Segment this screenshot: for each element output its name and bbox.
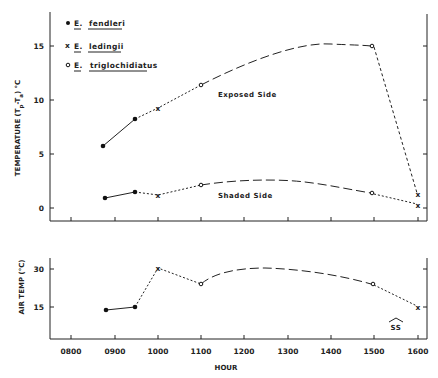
marker-triglochidiatus <box>199 83 203 87</box>
top-y-ticks-left <box>50 46 54 208</box>
legend-item-fendleri: E. fendleri <box>66 19 125 29</box>
bottom-y-ticks <box>50 269 427 307</box>
legend-genus: E. <box>74 42 83 51</box>
top-ytick-5: 5 <box>39 150 44 159</box>
xtick-1200: 1200 <box>234 347 255 356</box>
marker-triglochidiatus <box>370 191 374 195</box>
top-ytick-0: 0 <box>39 204 44 213</box>
xtick-1000: 1000 <box>148 347 169 356</box>
top-y-ticks-right <box>423 46 427 208</box>
top-ytick-15: 15 <box>34 42 44 51</box>
top-y-axis-title: TEMPERATURE (Tp-Ta) °C <box>14 80 25 176</box>
x-marker-icon: x <box>65 41 70 50</box>
marker-fendleri <box>101 144 106 149</box>
top-x-ticks <box>71 217 418 221</box>
bottom-y-axis-title: AIR TEMP (°C) <box>18 260 26 315</box>
xtick-0900: 0900 <box>105 347 126 356</box>
top-ytick-10: 10 <box>34 96 44 105</box>
series-air-temp: x x <box>104 264 421 312</box>
legend-genus: E. <box>74 61 83 70</box>
marker-ledingii: x <box>416 201 421 210</box>
bottom-ytick-30: 30 <box>34 265 44 274</box>
legend-item-triglochidiatus: E. triglochidiatus <box>66 61 158 71</box>
xtick-1100: 1100 <box>191 347 212 356</box>
xtick-1300: 1300 <box>278 347 299 356</box>
sunset-label: SS <box>391 324 402 332</box>
filled-circle-marker-icon <box>66 21 70 25</box>
marker-ledingii: x <box>416 190 421 199</box>
marker-fendleri <box>103 196 108 201</box>
legend-genus: E. <box>74 19 83 28</box>
open-circle-marker-icon <box>66 63 70 67</box>
legend-item-ledingii: x E. ledingii <box>65 41 124 52</box>
annotation-exposed-side: Exposed Side <box>218 91 277 99</box>
marker-fendleri <box>133 190 138 195</box>
x-tick-labels: 0800 0900 1000 1100 1200 1300 1400 1500 … <box>61 347 429 356</box>
legend-species: triglochidiatus <box>90 61 158 70</box>
marker-ledingii: x <box>156 191 161 200</box>
marker-ledingii: x <box>156 104 161 113</box>
legend: E. fendleri x E. ledingii E. triglochidi… <box>65 19 158 71</box>
sunset-marker: SS <box>389 318 403 332</box>
caret-icon <box>389 318 403 322</box>
top-panel: 15 10 5 0 TEMPERATURE (Tp-Ta) °C E. fend… <box>14 12 427 221</box>
annotation-shaded-side: Shaded Side <box>218 192 273 200</box>
marker-fendleri <box>133 305 138 310</box>
marker-triglochidiatus <box>371 282 375 286</box>
marker-triglochidiatus <box>199 183 203 187</box>
marker-triglochidiatus <box>199 282 203 286</box>
xtick-1600: 1600 <box>408 347 429 356</box>
xtick-1400: 1400 <box>321 347 342 356</box>
bottom-ytick-15: 15 <box>34 303 44 312</box>
marker-fendleri <box>133 117 138 122</box>
marker-triglochidiatus <box>370 44 374 48</box>
figure: 15 10 5 0 TEMPERATURE (Tp-Ta) °C E. fend… <box>0 0 438 378</box>
bottom-panel: 30 15 AIR TEMP (°C) 0800 0900 1000 1100 … <box>18 258 428 372</box>
legend-species: ledingii <box>89 42 124 51</box>
xtick-0800: 0800 <box>61 347 82 356</box>
marker-fendleri <box>104 308 109 313</box>
bottom-x-ticks <box>71 335 418 339</box>
marker-ledingii: x <box>416 303 421 312</box>
marker-ledingii: x <box>156 264 161 273</box>
legend-species: fendleri <box>89 19 125 28</box>
xtick-1500: 1500 <box>364 347 385 356</box>
x-axis-title: HOUR <box>215 364 238 372</box>
